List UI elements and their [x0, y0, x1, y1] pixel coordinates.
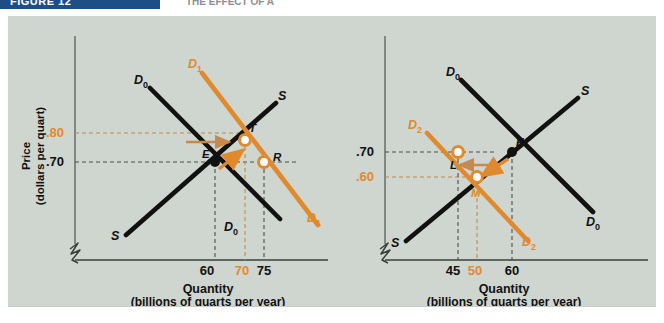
panel-b-point-l-label: L — [450, 159, 457, 171]
panel-b-point-m — [472, 172, 483, 183]
panel-b-x-axis-title-line2: (billions of quarts per year) — [427, 295, 582, 306]
panel-a-label-d0-lower-text: D — [224, 220, 233, 234]
panel-b-xtick-60: 60 — [505, 263, 519, 278]
panel-a-label-d1-lower-sub: 1 — [316, 218, 321, 228]
panel-b-ytick-060: .60 — [356, 169, 374, 184]
panel-b: E L M D 0 D 0 D 2 D 2 — [356, 36, 648, 306]
economics-demand-shift-figure: E T R D 0 D 0 D 1 D 1 — [8, 16, 656, 306]
panel-b-label-d0-upper: D 0 — [446, 65, 460, 82]
panel-b-label-d2-upper: D 2 — [408, 118, 422, 135]
panel-a-x-axis-title-line1: Quantity — [183, 282, 234, 296]
panel-a-y-axis-title-line2: (dollars per quart) — [34, 107, 46, 206]
panel-b-point-e — [507, 147, 517, 157]
panel-b-xtick-45: 45 — [446, 263, 460, 278]
panel-b-label-s-upper: S — [581, 84, 590, 98]
panel-b-label-d2-lower-sub: 2 — [531, 242, 536, 252]
panel-a-xtick-75: 75 — [257, 263, 271, 278]
panel-a-point-r-label: R — [273, 151, 282, 163]
banner-caption: THE EFFECT OF A — [186, 0, 274, 6]
panel-b-label-d2-lower-text: D — [522, 235, 531, 249]
panel-b-label-d0-lower-sub: 0 — [595, 222, 600, 232]
panel-b-ytick-070: .70 — [356, 144, 374, 159]
panel-a-label-d0-lower: D 0 — [224, 220, 238, 237]
panel-a-point-e-label: E — [202, 148, 210, 160]
panel-b-label-d2-lower: D 2 — [522, 235, 536, 252]
panel-b-label-d2-upper-sub: 2 — [417, 125, 422, 135]
panel-a-point-t-label: T — [249, 122, 257, 134]
panel-b-point-m-label: M — [471, 187, 481, 199]
chapter-banner: FIGURE 12 — [0, 0, 160, 9]
panel-a-point-r — [259, 157, 270, 168]
panel-a-label-d1-upper-text: D — [188, 57, 197, 71]
panel-a-label-d0-upper: D 0 — [134, 73, 148, 90]
panel-a-label-s-lower: S — [111, 229, 120, 243]
panel-a-label-d1-upper-sub: 1 — [197, 64, 202, 74]
panel-b-label-d2-upper-text: D — [408, 118, 417, 132]
banner-label: FIGURE 12 — [0, 0, 160, 6]
panel-a-curve-d1 — [202, 73, 318, 225]
panel-b-label-d0-lower: D 0 — [586, 215, 600, 232]
panel-a-label-d1-lower: D 1 — [307, 211, 321, 228]
figure-page: FIGURE 12 THE EFFECT OF A — [0, 0, 664, 323]
panel-a-label-d1-lower-text: D — [307, 211, 316, 225]
panel-a-label-s-upper: S — [278, 89, 287, 103]
panel-a-point-e — [210, 157, 220, 167]
panel-a-y-axis-title-line1: Price — [20, 142, 32, 170]
panel-b-label-d0-upper-text: D — [446, 65, 455, 79]
panel-a-xtick-70: 70 — [235, 263, 249, 278]
panel-b-label-d0-upper-sub: 0 — [455, 72, 460, 82]
panel-a-ytick-080: .80 — [46, 125, 64, 140]
panel-a-xtick-60: 60 — [200, 263, 214, 278]
panel-b-x-axis-title-line1: Quantity — [479, 282, 530, 296]
panel-a-x-axis-title-line2: (billions of quarts per year) — [131, 295, 286, 306]
panel-b-movement-arrow — [482, 159, 508, 176]
figure-panel: E T R D 0 D 0 D 1 D 1 — [8, 16, 656, 306]
footer-divider — [8, 306, 656, 307]
panel-b-label-d0-lower-text: D — [586, 215, 595, 229]
panel-b-point-l — [453, 147, 464, 158]
panel-b-label-s-lower: S — [391, 236, 400, 250]
panel-a-ytick-070: .70 — [46, 154, 64, 169]
panel-b-point-e-label: E — [516, 136, 524, 148]
panel-b-xtick-50: 50 — [468, 263, 482, 278]
panel-a-label-d0-lower-sub: 0 — [233, 227, 238, 237]
panel-a: E T R D 0 D 0 D 1 D 1 — [20, 36, 328, 306]
panel-a-label-d0-upper-text: D — [134, 73, 143, 87]
panel-a-label-d0-upper-sub: 0 — [143, 80, 148, 90]
panel-a-point-t — [240, 135, 251, 146]
body-text-remnant — [330, 312, 660, 320]
panel-a-label-d1-upper: D 1 — [188, 57, 202, 74]
